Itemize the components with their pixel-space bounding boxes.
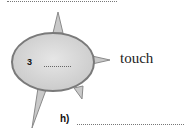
bubble-answer-blank[interactable] <box>44 66 71 67</box>
answer-label-h: h) <box>60 113 69 124</box>
item-number: 3 <box>27 57 32 67</box>
word-label: touch <box>120 50 153 67</box>
answer-line-h[interactable] <box>77 124 184 125</box>
spiky-bubble-shape <box>0 0 184 139</box>
